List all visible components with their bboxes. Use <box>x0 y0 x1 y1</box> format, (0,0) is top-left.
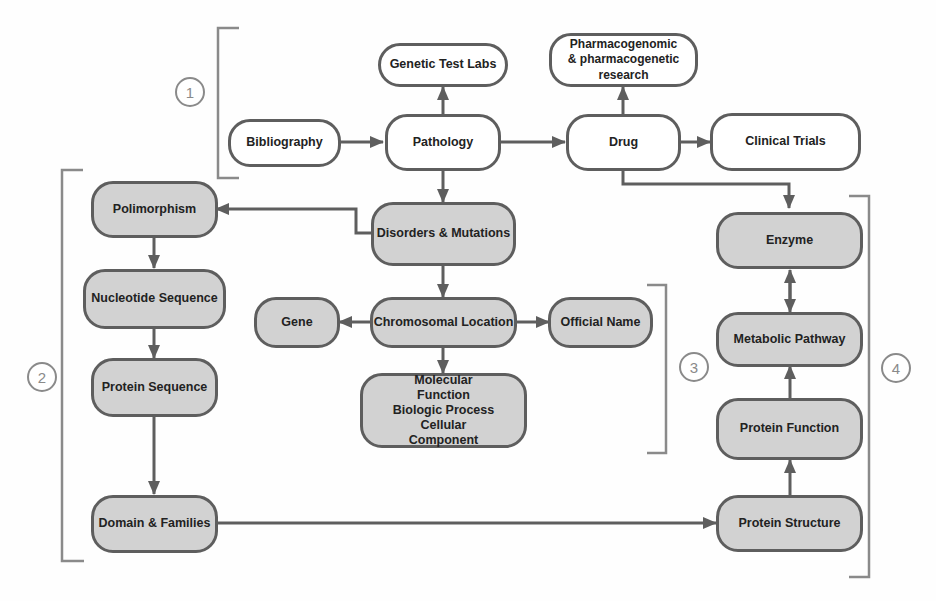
node-nucleotide-sequence: Nucleotide Sequence <box>83 269 226 329</box>
node-pharma-research: Pharmacogenomic & pharmacogenetic resear… <box>549 33 698 87</box>
node-polimorphism: Polimorphism <box>91 181 218 238</box>
node-clinical-trials: Clinical Trials <box>710 113 861 171</box>
node-protein-function: Protein Function <box>716 398 863 460</box>
node-genetic-test-labs: Genetic Test Labs <box>378 43 508 87</box>
group-4-label: 4 <box>881 353 911 383</box>
bracket-group-2 <box>62 170 84 561</box>
group-2-label: 2 <box>27 362 57 392</box>
node-metabolic-pathway: Metabolic Pathway <box>716 312 863 367</box>
node-gene: Gene <box>254 297 340 348</box>
node-pathology: Pathology <box>385 114 501 171</box>
node-domain-families: Domain & Families <box>91 495 218 553</box>
node-enzyme: Enzyme <box>716 212 863 269</box>
node-protein-structure: Protein Structure <box>716 495 863 552</box>
node-bibliography: Bibliography <box>228 119 341 167</box>
node-disorders-mutations: Disorders & Mutations <box>371 202 516 266</box>
node-drug: Drug <box>566 114 681 171</box>
node-official-name: Official Name <box>548 297 653 348</box>
group-1-label: 1 <box>175 77 205 107</box>
node-chromosomal-location: Chromosomal Location <box>370 297 517 348</box>
node-go-terms: Molecular Function Biologic Process Cell… <box>360 373 527 448</box>
group-3-label: 3 <box>679 352 709 382</box>
node-protein-sequence: Protein Sequence <box>91 358 218 417</box>
